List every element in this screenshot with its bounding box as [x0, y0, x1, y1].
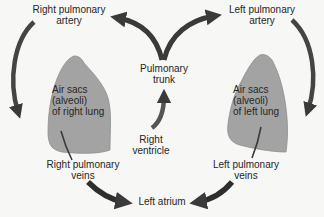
label-right-ventricle: Right ventricle — [126, 134, 176, 156]
label-right-lung-air-sacs: Air sacs (alveoli) of right lung — [52, 84, 112, 117]
label-left-lung-air-sacs: Air sacs (alveoli) of left lung — [233, 84, 293, 117]
arrow-right-veins-to-atrium — [88, 182, 124, 202]
pulmonary-circulation-diagram: Right pulmonary artery Left pulmonary ar… — [0, 0, 324, 217]
label-left-atrium: Left atrium — [132, 196, 192, 207]
arrow-ventricle-to-trunk — [152, 96, 164, 128]
label-pulmonary-trunk: Pulmonary trunk — [134, 63, 194, 85]
label-left-pulmonary-artery: Left pulmonary artery — [220, 4, 304, 26]
arrow-left-veins-to-atrium — [198, 182, 232, 202]
label-right-pulmonary-artery: Right pulmonary artery — [24, 4, 114, 26]
arrow-trunk-to-left-artery — [164, 16, 214, 60]
arrow-trunk-to-right-artery — [118, 18, 162, 60]
arrow-right-artery-to-lung — [13, 22, 34, 112]
arrow-left-artery-to-lung — [292, 20, 313, 110]
label-left-pulmonary-veins: Left pulmonary veins — [206, 159, 286, 181]
label-right-pulmonary-veins: Right pulmonary veins — [40, 159, 126, 181]
